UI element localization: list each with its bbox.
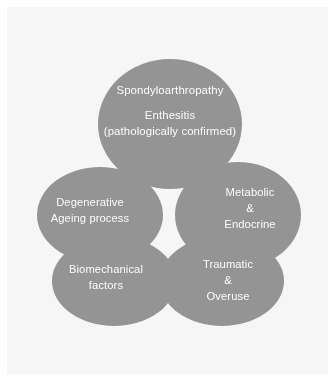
bottom-left-ellipse-shape[interactable] bbox=[52, 236, 176, 326]
bottom-right-ellipse-shape[interactable] bbox=[160, 236, 284, 326]
venn-diagram-shapes bbox=[0, 0, 335, 381]
diagram-canvas: Spondyloarthropathy Enthesitis (patholog… bbox=[0, 0, 335, 381]
